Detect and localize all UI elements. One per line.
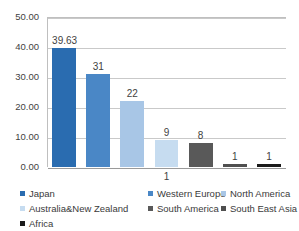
y-axis-tick-label: 20.00 (15, 102, 39, 112)
x-axis-baseline (48, 168, 286, 169)
bar-value-label: 39.63 (52, 35, 76, 46)
legend-entry[interactable]: Africa (20, 216, 53, 231)
bar (189, 143, 213, 167)
bar-value-label: 1 (257, 151, 281, 162)
chart-legend: JapanWestern EuropeNorth AmericaAustrali… (20, 186, 285, 231)
legend-swatch-icon (20, 191, 25, 196)
legend-label: Western Europe (157, 188, 225, 199)
legend-swatch-icon (221, 206, 226, 211)
bar-slot: 22 (120, 17, 144, 167)
legend-entry[interactable]: South America (148, 201, 219, 216)
y-axis-tick-label: 0.00 (21, 162, 40, 172)
bar-value-label: 9 (155, 127, 179, 138)
y-axis-tick-label: 50.00 (15, 12, 39, 22)
legend-entry[interactable]: North America (221, 186, 290, 201)
legend-label: South East Asia (230, 203, 297, 214)
legend-entry[interactable]: South East Asia (221, 201, 297, 216)
legend-row: Australia&New ZealandSouth AmericaSouth … (20, 201, 285, 216)
bar-slot: 39.63 (52, 17, 76, 167)
bar-value-label: 8 (189, 130, 213, 141)
y-axis: 50.0040.0030.0020.0010.000.00 (0, 17, 44, 167)
bar (86, 74, 110, 167)
legend-row: Africa (20, 216, 285, 231)
legend-label: North America (230, 188, 290, 199)
legend-entry[interactable]: Western Europe (148, 186, 225, 201)
legend-swatch-icon (20, 221, 25, 226)
legend-label: South America (157, 203, 219, 214)
bar (257, 164, 281, 167)
legend-swatch-icon (148, 206, 153, 211)
legend-label: Australia&New Zealand (29, 203, 128, 214)
legend-swatch-icon (148, 191, 153, 196)
bar (155, 140, 179, 167)
y-axis-tick-label: 10.00 (15, 132, 39, 142)
bar-value-label: 22 (120, 88, 144, 99)
bar-slot: 8 (189, 17, 213, 167)
legend-swatch-icon (20, 206, 25, 211)
axis-extra-label: 1 (155, 171, 179, 182)
legend-label: Japan (29, 188, 55, 199)
legend-row: JapanWestern EuropeNorth America (20, 186, 285, 201)
bar-slot: 9 (155, 17, 179, 167)
bar-value-label: 31 (86, 61, 110, 72)
bar-chart-figure: 50.0040.0030.0020.0010.000.00 39.6331229… (0, 0, 299, 231)
y-axis-tick-label: 30.00 (15, 72, 39, 82)
bar-slot: 1 (223, 17, 247, 167)
legend-swatch-icon (221, 191, 226, 196)
y-axis-tick-label: 40.00 (15, 42, 39, 52)
bar (223, 164, 247, 167)
legend-entry[interactable]: Japan (20, 186, 55, 201)
bar-value-label: 1 (223, 151, 247, 162)
bar-slot: 1 (257, 17, 281, 167)
bars-layer: 39.63312298111 (47, 17, 286, 167)
legend-entry[interactable]: Australia&New Zealand (20, 201, 128, 216)
bar-slot: 31 (86, 17, 110, 167)
bar (120, 101, 144, 167)
legend-label: Africa (29, 218, 53, 229)
bar (52, 48, 76, 167)
